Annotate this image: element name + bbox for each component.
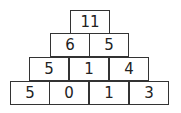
pyramid-cell: 5 (89, 33, 129, 57)
pyramid-cell: 1 (89, 81, 129, 105)
pyramid-cell: 0 (49, 81, 89, 105)
pyramid-cell: 11 (70, 10, 110, 34)
pyramid-cell: 4 (109, 57, 149, 81)
pyramid-cell: 1 (69, 57, 109, 81)
pyramid-cell: 6 (50, 33, 90, 57)
pyramid-cell: 3 (129, 81, 169, 105)
pyramid-cell: 5 (10, 81, 50, 105)
pyramid-cell: 5 (29, 57, 69, 81)
